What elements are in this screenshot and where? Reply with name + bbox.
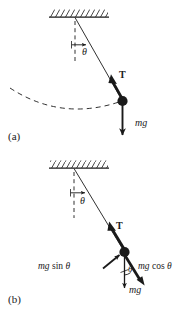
ceiling-b <box>49 161 109 169</box>
weight-label-a: mg <box>135 118 147 128</box>
panel-tag-a: (a) <box>8 131 20 142</box>
tangential-component-label-b: mg sin θ <box>38 262 70 272</box>
radial-function: cos <box>152 261 165 271</box>
weight-label-b: mg <box>129 285 141 295</box>
angle-label-at-bob-b: θ <box>128 265 132 274</box>
tension-label-a: T <box>119 70 126 80</box>
panel-tag-b: (b) <box>8 294 21 305</box>
tangential-function: sin <box>52 261 63 271</box>
pendulum-bob-b <box>119 247 129 257</box>
tangential-prefix: mg <box>38 261 50 271</box>
pendulum-bob-a <box>117 96 127 106</box>
angle-label-b: θ <box>80 196 85 206</box>
radial-angle: θ <box>167 261 172 271</box>
tangential-component-vector-b <box>103 255 120 269</box>
radial-component-label-b: mg cos θ <box>138 262 172 272</box>
panel-a-graphics <box>10 10 128 136</box>
figure-canvas: θ T mg (a) θ T mg sin θ mg cos θ θ mg (b… <box>0 0 192 318</box>
tension-label-b: T <box>116 221 123 231</box>
radial-prefix: mg <box>138 261 150 271</box>
angle-label-a: θ <box>82 47 87 57</box>
tangential-angle: θ <box>65 261 70 271</box>
ceiling-a <box>49 10 109 18</box>
swing-arc-a <box>10 88 122 109</box>
